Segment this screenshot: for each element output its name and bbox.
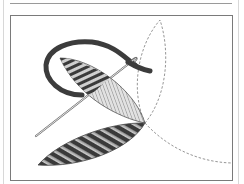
dashed-leaf-outline-lower <box>145 123 232 163</box>
thread-front <box>128 62 150 71</box>
embroidery-illustration <box>0 0 244 184</box>
lower-leaf-stitched <box>38 123 145 165</box>
